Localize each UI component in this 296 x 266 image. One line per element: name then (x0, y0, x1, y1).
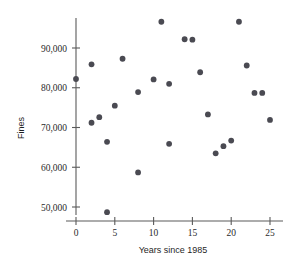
data-point (213, 150, 219, 156)
data-point (190, 37, 196, 43)
y-tick-label: 80,000 (41, 83, 67, 93)
data-point (221, 143, 227, 149)
data-point (228, 138, 234, 144)
data-point (89, 61, 95, 67)
data-point (197, 69, 203, 75)
data-point (135, 89, 141, 95)
y-tick-label: 60,000 (41, 163, 67, 173)
y-tick-label: 50,000 (41, 203, 67, 213)
data-point (205, 111, 211, 117)
y-tick-label: 90,000 (41, 44, 67, 54)
x-tick-label: 15 (188, 228, 198, 238)
data-point (267, 117, 273, 123)
data-point (182, 36, 188, 42)
data-point (166, 81, 172, 87)
data-point (135, 170, 141, 176)
data-point (166, 141, 172, 147)
scatter-plot-figure: 50,00060,00070,00080,00090,000 051015202… (0, 0, 296, 266)
y-tick-label: 70,000 (41, 123, 67, 133)
data-point (236, 19, 242, 25)
plot-canvas: 50,00060,00070,00080,00090,000 051015202… (0, 0, 296, 266)
x-axis-title: Years since 1985 (139, 245, 208, 255)
x-tick-label: 0 (74, 228, 79, 238)
data-point (89, 120, 95, 126)
x-tick-label: 10 (149, 228, 159, 238)
data-point (96, 114, 102, 120)
data-point-group (73, 19, 273, 215)
data-point (112, 103, 118, 109)
x-tick-label-group: 0510152025 (74, 228, 275, 238)
data-point (151, 77, 157, 83)
data-point (104, 139, 110, 145)
data-point (252, 90, 258, 96)
x-tick-label: 20 (226, 228, 236, 238)
x-tick-label: 5 (112, 228, 117, 238)
y-axis-title: Fines (16, 117, 26, 140)
data-point (244, 63, 250, 69)
y-tick-label-group: 50,00060,00070,00080,00090,000 (41, 44, 67, 213)
data-point (104, 209, 110, 215)
data-point (158, 19, 164, 25)
data-point (73, 76, 79, 82)
data-point (259, 90, 265, 96)
data-point (120, 56, 126, 62)
x-tick-label: 25 (265, 228, 275, 238)
